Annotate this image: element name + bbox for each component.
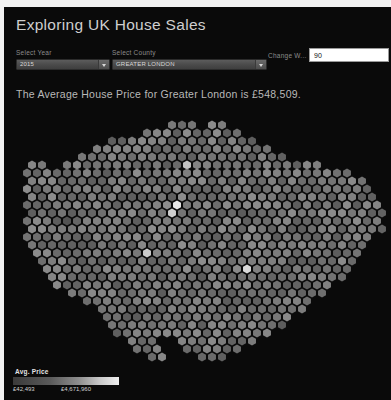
map-hex[interactable] [208, 120, 216, 129]
map-hex[interactable] [353, 216, 361, 225]
map-hex[interactable] [118, 256, 126, 265]
map-hex[interactable] [168, 208, 176, 217]
map-hex[interactable] [173, 216, 181, 225]
map-hex[interactable] [283, 160, 291, 169]
map-hex[interactable] [338, 192, 346, 201]
map-hex[interactable] [78, 272, 86, 281]
map-hex[interactable] [308, 192, 316, 201]
map-hex[interactable] [43, 216, 51, 225]
map-hex[interactable] [223, 232, 231, 241]
map-hex[interactable] [198, 240, 206, 249]
map-hex[interactable] [288, 176, 296, 185]
map-hex[interactable] [263, 144, 271, 153]
map-hex[interactable] [208, 152, 216, 161]
map-hex[interactable] [133, 248, 141, 257]
map-hex[interactable] [198, 304, 206, 313]
map-hex[interactable] [133, 168, 141, 177]
map-hex[interactable] [208, 272, 216, 281]
map-hex[interactable] [148, 304, 156, 313]
map-hex[interactable] [93, 248, 101, 257]
map-hex[interactable] [323, 168, 331, 177]
map-hex[interactable] [103, 216, 111, 225]
map-hex[interactable] [348, 192, 356, 201]
map-hex[interactable] [358, 224, 366, 233]
map-hex[interactable] [298, 240, 306, 249]
map-hex[interactable] [248, 208, 256, 217]
map-hex[interactable] [273, 232, 281, 241]
map-hex[interactable] [238, 136, 246, 145]
map-hex[interactable] [68, 208, 76, 217]
map-hex[interactable] [78, 208, 86, 217]
map-hex[interactable] [198, 224, 206, 233]
change-width-input[interactable] [310, 49, 388, 61]
map-hex[interactable] [328, 176, 336, 185]
map-hex[interactable] [123, 232, 131, 241]
map-hex[interactable] [323, 200, 331, 209]
map-hex[interactable] [178, 224, 186, 233]
map-hex[interactable] [298, 224, 306, 233]
map-hex[interactable] [273, 280, 281, 289]
map-hex[interactable] [143, 264, 151, 273]
map-hex[interactable] [253, 184, 261, 193]
map-hex[interactable] [138, 208, 146, 217]
map-hex[interactable] [173, 312, 181, 321]
map-hex[interactable] [83, 296, 91, 305]
map-hex[interactable] [333, 168, 341, 177]
map-hex[interactable] [208, 336, 216, 345]
map-hex[interactable] [313, 184, 321, 193]
map-hex[interactable] [238, 336, 246, 345]
map-hex[interactable] [128, 208, 136, 217]
map-hex[interactable] [158, 352, 166, 361]
map-hex[interactable] [168, 288, 176, 297]
map-hex[interactable] [238, 240, 246, 249]
map-hex[interactable] [298, 176, 306, 185]
map-hex[interactable] [258, 192, 266, 201]
map-hex[interactable] [253, 232, 261, 241]
map-hex[interactable] [263, 264, 271, 273]
map-hex[interactable] [173, 296, 181, 305]
map-hex[interactable] [228, 208, 236, 217]
hexbin-map[interactable] [4, 107, 391, 400]
map-hex[interactable] [218, 224, 226, 233]
map-hex[interactable] [93, 232, 101, 241]
map-hex[interactable] [88, 256, 96, 265]
map-hex[interactable] [243, 312, 251, 321]
map-hex[interactable] [38, 240, 46, 249]
map-hex[interactable] [223, 128, 231, 137]
map-hex[interactable] [348, 240, 356, 249]
map-hex[interactable] [23, 216, 31, 225]
map-hex[interactable] [228, 272, 236, 281]
map-hex[interactable] [203, 328, 211, 337]
map-hex[interactable] [58, 208, 66, 217]
map-hex[interactable] [318, 192, 326, 201]
map-hex[interactable] [103, 200, 111, 209]
map-hex[interactable] [263, 280, 271, 289]
map-hex[interactable] [358, 176, 366, 185]
map-hex[interactable] [233, 160, 241, 169]
map-hex[interactable] [133, 296, 141, 305]
map-hex[interactable] [263, 160, 271, 169]
map-hex[interactable] [243, 160, 251, 169]
map-hex[interactable] [183, 128, 191, 137]
map-hex[interactable] [168, 320, 176, 329]
map-hex[interactable] [343, 168, 351, 177]
map-hex[interactable] [268, 288, 276, 297]
map-hex[interactable] [213, 232, 221, 241]
map-hex[interactable] [198, 208, 206, 217]
map-hex[interactable] [148, 152, 156, 161]
map-hex[interactable] [213, 216, 221, 225]
map-hex[interactable] [133, 232, 141, 241]
map-hex[interactable] [263, 216, 271, 225]
map-hex[interactable] [313, 232, 321, 241]
map-hex[interactable] [213, 328, 221, 337]
map-hex[interactable] [158, 320, 166, 329]
map-hex[interactable] [108, 176, 116, 185]
map-hex[interactable] [138, 224, 146, 233]
map-hex[interactable] [303, 264, 311, 273]
map-hex[interactable] [343, 200, 351, 209]
map-hex[interactable] [233, 168, 241, 177]
map-hex[interactable] [208, 224, 216, 233]
map-hex[interactable] [253, 280, 261, 289]
map-hex[interactable] [33, 248, 41, 257]
map-hex[interactable] [283, 312, 291, 321]
